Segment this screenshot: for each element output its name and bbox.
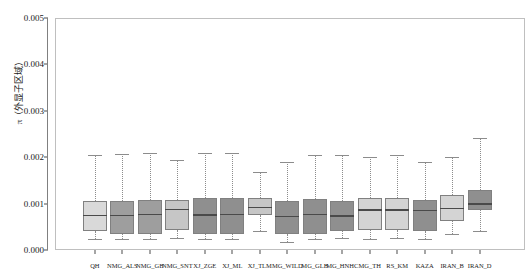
x-tick-mark [287, 250, 288, 254]
x-tick-label: RS_KM [386, 262, 408, 269]
whisker-upper [122, 154, 124, 200]
cap-lower [225, 239, 239, 240]
whisker-upper [232, 153, 234, 198]
x-tick-mark [149, 250, 150, 254]
box [165, 200, 189, 230]
whisker-upper [342, 155, 344, 201]
median-line [330, 215, 354, 216]
whisker-lower [260, 215, 262, 231]
y-tick-label: 0.002 [8, 152, 44, 162]
median-line [303, 214, 327, 215]
box [275, 201, 299, 234]
cap-upper [335, 155, 349, 156]
whisker-lower [342, 231, 344, 238]
x-tick-mark [397, 250, 398, 254]
median-line [248, 207, 272, 208]
x-tick-label: MG_GLB [301, 262, 328, 269]
cap-lower [418, 239, 432, 240]
cap-lower [253, 231, 267, 232]
cap-upper [363, 157, 377, 158]
cap-upper [143, 153, 157, 154]
cap-upper [418, 162, 432, 163]
x-tick-label: QH [90, 262, 99, 269]
cap-lower [363, 239, 377, 240]
cap-lower [115, 239, 129, 240]
cap-upper [445, 157, 459, 158]
median-line [275, 216, 299, 217]
y-tick-label: 0.000 [8, 245, 44, 255]
x-tick-label: MG_WILD [272, 262, 303, 269]
x-tick-mark [314, 250, 315, 254]
whisker-lower [480, 210, 482, 231]
cap-upper [88, 155, 102, 156]
x-tick-label: IRAN_D [468, 262, 492, 269]
cap-upper [225, 153, 239, 154]
x-tick-mark [479, 250, 480, 254]
whisker-upper [177, 160, 179, 200]
whisker-lower [425, 231, 427, 239]
y-tick-label: 0.004 [8, 59, 44, 69]
cap-lower [473, 231, 487, 232]
whisker-upper [205, 153, 207, 198]
x-tick-label: IRAN_B [440, 262, 463, 269]
cap-upper [170, 160, 184, 161]
median-line [110, 215, 134, 216]
cap-upper [280, 162, 294, 163]
boxplot-figure: π（外显子区域） 0.0000.0010.0020.0030.0040.005 … [0, 0, 532, 279]
y-tick-label: 0.003 [8, 106, 44, 116]
x-tick-mark [369, 250, 370, 254]
cap-lower [390, 238, 404, 239]
box [468, 190, 492, 210]
cap-lower [88, 239, 102, 240]
whisker-upper [287, 162, 289, 201]
y-axis-title: π（外显子区域） [12, 21, 25, 161]
x-tick-label: XJ_ML [222, 262, 242, 269]
cap-upper [115, 154, 129, 155]
median-line [468, 203, 492, 204]
median-line [413, 210, 437, 211]
whisker-lower [370, 230, 372, 239]
whisker-upper [425, 162, 427, 200]
whisker-lower [452, 221, 454, 233]
x-tick-label: XJ_ZGE [193, 262, 216, 269]
box [220, 198, 244, 233]
x-tick-label: NMG_SNT [162, 262, 193, 269]
cap-lower [445, 234, 459, 235]
x-tick-label: MG_TH [359, 262, 381, 269]
y-tick-label: 0.001 [8, 199, 44, 209]
x-tick-mark [122, 250, 123, 254]
whisker-lower [177, 230, 179, 238]
x-tick-mark [342, 250, 343, 254]
median-line [83, 215, 107, 216]
x-tick-mark [177, 250, 178, 254]
x-tick-label: MG_HNHC [326, 262, 358, 269]
cap-lower [143, 239, 157, 240]
x-tick-mark [204, 250, 205, 254]
cap-upper [198, 153, 212, 154]
cap-lower [170, 238, 184, 239]
cap-upper [473, 138, 487, 139]
median-line [385, 209, 409, 210]
cap-lower [280, 242, 294, 243]
cap-upper [253, 172, 267, 173]
whisker-upper [480, 138, 482, 190]
x-tick-label: KAZA [416, 262, 434, 269]
whisker-upper [452, 157, 454, 196]
x-tick-mark [94, 250, 95, 254]
x-tick-label: NMG_ALS [107, 262, 138, 269]
whisker-upper [370, 157, 372, 198]
y-tick-label: 0.005 [8, 13, 44, 23]
x-tick-mark [259, 250, 260, 254]
median-line [165, 209, 189, 210]
whisker-lower [397, 230, 399, 238]
y-axis-line [47, 18, 48, 250]
whisker-upper [150, 153, 152, 200]
x-tick-label: NMG_GB [136, 262, 163, 269]
x-tick-mark [424, 250, 425, 254]
median-line [193, 214, 217, 215]
whisker-lower [287, 234, 289, 242]
median-line [358, 209, 382, 210]
median-line [440, 208, 464, 209]
median-line [220, 214, 244, 215]
box [193, 198, 217, 233]
